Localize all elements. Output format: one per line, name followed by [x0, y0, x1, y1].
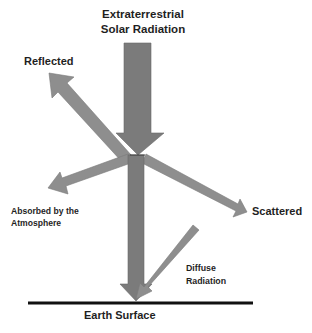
reflected-arrow: [49, 73, 132, 163]
title-line-2: Solar Radiation: [88, 22, 198, 37]
diffuse-line-1: Diffuse: [186, 262, 226, 275]
label-reflected: Reflected: [24, 55, 74, 69]
extraterrestrial-arrow: [116, 43, 164, 155]
direct-beam-arrow: [120, 155, 152, 301]
label-absorbed-by-atmosphere: Absorbed by the Atmosphere: [11, 205, 79, 229]
title-line-1: Extraterrestrial: [88, 7, 198, 22]
absorbed-line-2: Atmosphere: [11, 217, 79, 229]
absorbed-arrow: [48, 154, 131, 194]
radiation-diagram: [0, 0, 312, 333]
label-scattered: Scattered: [252, 205, 302, 219]
absorbed-line-1: Absorbed by the: [11, 205, 79, 217]
label-earth-surface: Earth Surface: [84, 309, 156, 323]
diffuse-line-2: Radiation: [186, 275, 226, 288]
scattered-arrow: [142, 154, 247, 217]
title-extraterrestrial-solar-radiation: Extraterrestrial Solar Radiation: [88, 7, 198, 37]
label-diffuse-radiation: Diffuse Radiation: [186, 262, 226, 288]
